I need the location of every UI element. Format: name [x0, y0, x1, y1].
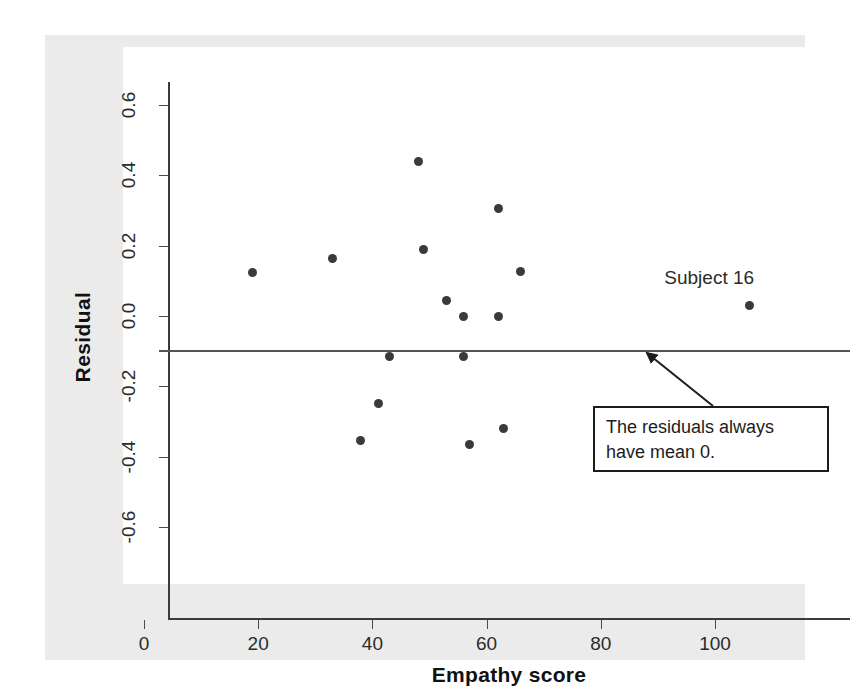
figure-panel: 0.60.40.20.0-0.2-0.4-0.6 020406080100 Re… — [45, 35, 805, 660]
data-point — [465, 440, 474, 449]
y-tick-label: 0.0 — [107, 305, 151, 327]
x-tick-mark — [715, 620, 716, 629]
x-tick-mark — [258, 620, 259, 629]
y-tick-label: -0.2 — [107, 375, 151, 397]
data-point — [745, 301, 754, 310]
x-tick-mark — [372, 620, 373, 629]
y-tick-label: 0.4 — [107, 164, 151, 186]
x-axis-title: Empathy score — [168, 663, 850, 687]
data-point — [328, 254, 337, 263]
subject-16-label: Subject 16 — [664, 267, 754, 289]
data-point — [374, 399, 383, 408]
y-tick-mark — [159, 527, 168, 528]
data-point — [385, 352, 394, 361]
x-tick-label: 20 — [228, 633, 288, 655]
x-axis-line — [168, 618, 850, 620]
data-point — [248, 268, 257, 277]
y-tick-mark — [159, 386, 168, 387]
data-point — [414, 157, 423, 166]
data-point — [494, 204, 503, 213]
mean-zero-callout: The residuals always have mean 0. — [593, 406, 829, 472]
x-tick-label: 40 — [342, 633, 402, 655]
y-tick-label: -0.6 — [107, 516, 151, 538]
y-tick-label: 0.2 — [107, 235, 151, 257]
y-tick-mark — [159, 105, 168, 106]
x-tick-mark — [487, 620, 488, 629]
data-point — [419, 245, 428, 254]
y-tick-mark — [159, 175, 168, 176]
y-tick-mark — [159, 457, 168, 458]
data-point — [442, 296, 451, 305]
x-tick-label: 80 — [571, 633, 631, 655]
callout-line-2: have mean 0. — [606, 440, 816, 465]
data-point — [494, 312, 503, 321]
data-point — [459, 312, 468, 321]
y-tick-label: 0.6 — [107, 94, 151, 116]
data-point — [516, 267, 525, 276]
x-tick-label: 0 — [114, 633, 174, 655]
x-tick-label: 100 — [685, 633, 745, 655]
zero-reference-line — [159, 350, 850, 352]
x-tick-label: 60 — [457, 633, 517, 655]
y-tick-mark — [159, 246, 168, 247]
y-axis-title: Residual — [71, 237, 95, 437]
x-tick-mark — [601, 620, 602, 629]
y-tick-mark — [159, 316, 168, 317]
y-tick-label: -0.4 — [107, 446, 151, 468]
x-tick-mark — [144, 620, 145, 629]
callout-line-1: The residuals always — [606, 415, 816, 440]
